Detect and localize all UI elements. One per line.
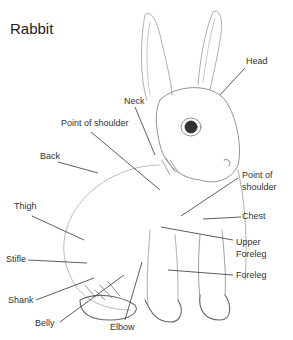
stifle-leader-line xyxy=(28,260,87,263)
upper-foreleg-leader-line xyxy=(161,227,233,240)
thigh-leader-line xyxy=(32,216,84,240)
back-leader-line xyxy=(58,162,98,173)
label-thigh: Thigh xyxy=(14,201,37,212)
label-elbow: Elbow xyxy=(110,322,135,333)
label-neck: Neck xyxy=(124,96,145,107)
label-back: Back xyxy=(40,151,60,162)
label-upper-foreleg-line2: Foreleg xyxy=(236,249,267,260)
label-stifle: Stifle xyxy=(6,254,26,265)
label-foreleg: Foreleg xyxy=(236,270,267,281)
diagram-title: Rabbit xyxy=(10,20,53,37)
point-of-shoulder-right-leader-line xyxy=(181,178,238,216)
elbow-leader-line xyxy=(125,262,142,320)
label-belly: Belly xyxy=(35,318,55,329)
foreleg-leader-line xyxy=(168,270,233,275)
label-point-of-shoulder-left: Point of shoulder xyxy=(61,118,129,129)
label-upper-foreleg-line1: Upper xyxy=(236,237,261,248)
label-point-of-shoulder-right-line1: Point of xyxy=(242,170,273,181)
label-head: Head xyxy=(246,56,268,67)
belly-leader-line xyxy=(60,275,124,322)
label-point-of-shoulder-right-line2: shoulder xyxy=(242,182,277,193)
shank-leader-line xyxy=(36,278,94,300)
chest-leader-line xyxy=(203,217,241,219)
head-leader-line xyxy=(220,68,245,95)
neck-leader-line xyxy=(135,107,155,155)
label-chest: Chest xyxy=(242,211,266,222)
label-shank: Shank xyxy=(8,295,34,306)
point-of-shoulder-left-leader-line xyxy=(91,132,160,190)
